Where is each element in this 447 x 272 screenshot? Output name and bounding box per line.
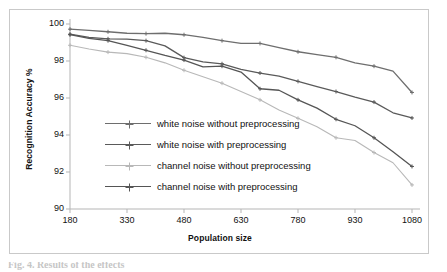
series-2-marker-6 <box>182 68 186 72</box>
x-tick-330: 330 <box>107 215 147 225</box>
legend-swatch-icon-2 <box>105 161 151 170</box>
y-tick-96: 96 <box>36 92 64 102</box>
legend-item-0: white noise without preprocessing <box>105 113 345 134</box>
legend-label-1: white noise with preprocessing <box>157 139 286 150</box>
legend-item-3: channel noise with preprocessing <box>105 176 345 197</box>
legend-label-2: channel noise without preprocessing <box>157 160 311 171</box>
y-tick-100: 100 <box>36 18 64 28</box>
series-3-marker-0 <box>68 33 72 37</box>
series-0-marker-10 <box>258 41 262 45</box>
series-2-marker-4 <box>144 55 148 59</box>
y-tick-94: 94 <box>36 129 64 139</box>
series-1-marker-18 <box>410 116 414 120</box>
series-3-marker-6 <box>182 58 186 62</box>
x-tick-1080: 1080 <box>392 215 432 225</box>
series-2-marker-2 <box>106 50 110 54</box>
x-tick-630: 630 <box>221 215 261 225</box>
x-tick-930: 930 <box>335 215 375 225</box>
figure: Recognition Accuracy % Population size 9… <box>0 0 447 272</box>
legend-item-2: channel noise without preprocessing <box>105 155 345 176</box>
y-axis-title: Recognition Accuracy % <box>24 59 34 179</box>
series-1-marker-4 <box>144 39 148 43</box>
legend-swatch-icon-3 <box>105 182 151 191</box>
x-tick-480: 480 <box>164 215 204 225</box>
legend-label-0: white noise without preprocessing <box>157 118 300 129</box>
chart-frame: Recognition Accuracy % Population size 9… <box>9 9 429 254</box>
series-1-marker-10 <box>258 71 262 75</box>
series-line-1 <box>70 34 412 118</box>
x-tick-180: 180 <box>50 215 90 225</box>
legend-label-3: channel noise with preprocessing <box>157 181 297 192</box>
series-0-marker-4 <box>144 32 148 36</box>
series-2-marker-8 <box>220 81 224 85</box>
legend-swatch-icon-0 <box>105 119 151 128</box>
series-0-marker-16 <box>372 64 376 68</box>
y-tick-90: 90 <box>36 203 64 213</box>
series-0-marker-8 <box>220 39 224 43</box>
plot-area: Recognition Accuracy % Population size 9… <box>10 10 430 255</box>
series-0-marker-2 <box>106 30 110 34</box>
series-3-marker-4 <box>144 48 148 52</box>
y-tick-92: 92 <box>36 166 64 176</box>
series-2-marker-0 <box>68 43 72 47</box>
series-0-marker-6 <box>182 33 186 37</box>
series-2-marker-10 <box>258 98 262 102</box>
figure-caption: Fig. 4. Results of the effects <box>8 262 268 272</box>
series-1-marker-12 <box>296 79 300 83</box>
series-1-marker-14 <box>334 90 338 94</box>
series-0-marker-14 <box>334 55 338 59</box>
y-tick-98: 98 <box>36 55 64 65</box>
figure-caption-text: Fig. 4. Results of the effects <box>8 262 124 270</box>
legend-item-1: white noise with preprocessing <box>105 134 345 155</box>
x-tick-780: 780 <box>278 215 318 225</box>
series-0-marker-12 <box>296 50 300 54</box>
legend-swatch-icon-1 <box>105 140 151 149</box>
chart-legend: white noise without preprocessingwhite n… <box>105 113 345 197</box>
series-0-marker-0 <box>68 27 72 31</box>
x-axis-title: Population size <box>10 233 430 243</box>
